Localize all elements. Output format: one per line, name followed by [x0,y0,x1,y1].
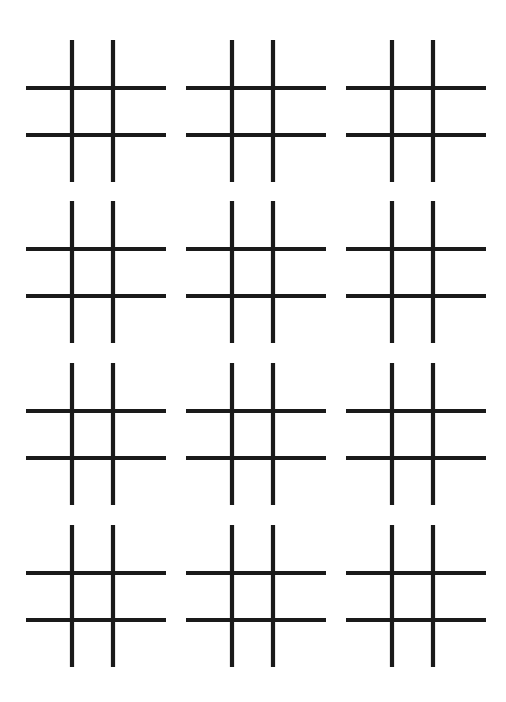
grid-lines [340,363,492,507]
tic-tac-toe-grid[interactable] [340,40,492,184]
grid-lines [180,525,332,669]
tic-tac-toe-grid[interactable] [180,525,332,669]
grid-lines [340,525,492,669]
tic-tac-toe-grid[interactable] [20,525,172,669]
grid-lines [180,40,332,184]
grid-lines [340,201,492,345]
grid-lines [20,525,172,669]
grid-lines [20,201,172,345]
grid-lines [180,201,332,345]
worksheet-page [0,0,506,702]
tic-tac-toe-grid[interactable] [20,201,172,345]
tic-tac-toe-grid[interactable] [180,363,332,507]
tic-tac-toe-grid[interactable] [180,40,332,184]
grid-lines [20,363,172,507]
tic-tac-toe-grid[interactable] [20,363,172,507]
grid-lines [340,40,492,184]
tic-tac-toe-grid[interactable] [340,525,492,669]
tic-tac-toe-grid[interactable] [180,201,332,345]
tic-tac-toe-grid[interactable] [20,40,172,184]
tic-tac-toe-grid[interactable] [340,201,492,345]
grid-lines [180,363,332,507]
grid-lines [20,40,172,184]
tic-tac-toe-grid[interactable] [340,363,492,507]
